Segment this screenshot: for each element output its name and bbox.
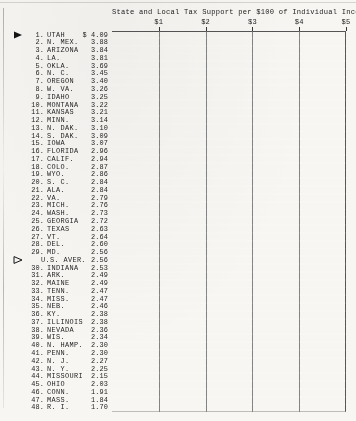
axis-tick-label: $1 — [154, 18, 163, 26]
bar-container — [112, 187, 245, 193]
bar-container — [112, 164, 246, 170]
bar-container — [112, 47, 292, 53]
bar-container — [112, 63, 285, 69]
bar-container — [112, 303, 227, 309]
bar-container — [112, 272, 229, 278]
x-axis: $1$2$3$4$5 — [0, 18, 356, 30]
bar-container — [112, 195, 243, 201]
bar-container — [112, 140, 256, 146]
bar-container — [112, 381, 207, 387]
bar-container — [112, 234, 236, 240]
axis-tick-label: $3 — [248, 18, 257, 26]
row-category-label: R. I. — [47, 403, 69, 411]
bar-container — [112, 350, 220, 356]
bar-container — [112, 226, 235, 232]
bar-container — [112, 125, 257, 131]
row-value-label: 1.70 — [74, 403, 108, 411]
bar-container — [112, 39, 294, 45]
chart-title: State and Local Tax Support per $100 of … — [112, 8, 356, 16]
bar-row-list: 1.UTAH$ 4.092.N. MEX.3.883.ARIZONA3.844.… — [0, 31, 356, 412]
row-rank: 48. — [24, 403, 44, 411]
bar-container — [112, 109, 262, 115]
bar-container — [112, 94, 264, 100]
bar-container — [112, 404, 192, 410]
bar-container — [112, 397, 198, 403]
bar-container — [112, 249, 232, 255]
bar-container — [112, 358, 218, 364]
axis-tick-label: $5 — [342, 18, 351, 26]
bar-chart: State and Local Tax Support per $100 of … — [0, 0, 356, 421]
bar-container — [112, 78, 271, 84]
bar-container — [112, 70, 273, 76]
bar-container — [112, 133, 257, 139]
bar-container — [112, 117, 259, 123]
axis-tick-label: $4 — [295, 18, 304, 26]
bar-container — [112, 179, 245, 185]
bar-container — [112, 241, 234, 247]
bar-container — [112, 86, 265, 92]
bar-row[interactable]: 48.R. I.1.70 — [0, 404, 356, 412]
bar-container — [112, 389, 201, 395]
bar-container — [112, 218, 239, 224]
bar-container — [112, 156, 250, 162]
bar-container — [112, 171, 246, 177]
bar-container — [112, 257, 232, 263]
bar-container — [112, 202, 241, 208]
bar-container — [112, 334, 222, 340]
bar-container — [112, 319, 223, 325]
bar-container — [112, 101, 263, 107]
bar-container — [112, 373, 213, 379]
bar-container — [112, 55, 290, 61]
bar-container — [112, 148, 251, 154]
axis-tick-label: $2 — [201, 18, 210, 26]
bar-container — [112, 311, 223, 317]
bar-container — [112, 210, 240, 216]
bar-container — [112, 366, 217, 372]
bar-container — [112, 288, 228, 294]
bar-container — [112, 327, 222, 333]
bar-container — [112, 280, 229, 286]
bar-container — [112, 342, 220, 348]
bar-container — [112, 296, 228, 302]
bar-container — [112, 32, 303, 38]
bar-container — [112, 265, 230, 271]
